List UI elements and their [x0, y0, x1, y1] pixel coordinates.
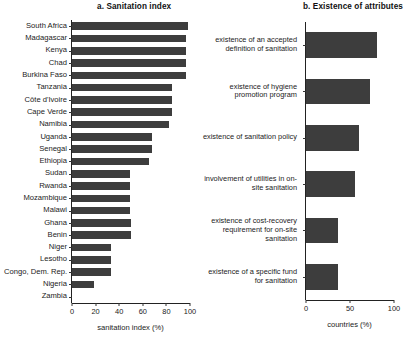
category-label: existence of an accepted definition of s…: [200, 22, 297, 68]
bar: [72, 182, 130, 190]
bar: [306, 264, 338, 290]
bar: [72, 59, 186, 67]
bar: [306, 32, 377, 58]
bar-row: [306, 22, 394, 68]
bar: [72, 84, 172, 92]
category-label: Tanzania: [0, 81, 67, 93]
category-label: Ethiopia: [0, 155, 67, 167]
category-tick: [69, 38, 72, 39]
category-label: Côte d'Ivoire: [0, 94, 67, 106]
bar-row: [72, 192, 190, 204]
category-tick: [69, 174, 72, 175]
category-label: Namibia: [0, 118, 67, 130]
x-tick: [95, 303, 96, 306]
bar: [72, 158, 149, 166]
chart-b-title: b. Existence of attributes: [303, 2, 403, 11]
bar: [72, 47, 186, 55]
category-tick: [69, 100, 72, 101]
chart-a-plot-area: 020406080100: [71, 20, 190, 303]
bar-row: [72, 180, 190, 192]
x-tick-label: 100: [388, 304, 400, 313]
x-tick-label: 0: [304, 304, 308, 313]
category-label: Benin: [0, 229, 67, 241]
bar-row: [306, 254, 394, 300]
category-tick: [69, 63, 72, 64]
x-tick-label: 60: [139, 307, 147, 316]
chart-a-x-axis-label: sanitation index (%): [71, 323, 190, 332]
category-label: Zambia: [0, 291, 67, 303]
bar-row: [72, 254, 190, 266]
category-label: existence of cost-recovery requirement f…: [200, 207, 297, 253]
bar-row: [72, 278, 190, 290]
bar: [72, 170, 130, 178]
category-tick: [69, 223, 72, 224]
x-tick-label: 40: [115, 307, 123, 316]
bar-row: [72, 143, 190, 155]
category-label: Lesotho: [0, 254, 67, 266]
category-label: existence of a specific fund for sanitat…: [200, 254, 297, 300]
category-tick: [303, 45, 306, 46]
x-tick: [190, 303, 191, 306]
category-tick: [69, 198, 72, 199]
category-tick: [69, 235, 72, 236]
chart-b-x-axis-label: countries (%): [305, 320, 394, 329]
bar-row: [72, 106, 190, 118]
category-tick: [69, 149, 72, 150]
category-label: Cape Verde: [0, 106, 67, 118]
bar: [72, 22, 188, 30]
category-tick: [69, 161, 72, 162]
category-tick: [303, 277, 306, 278]
bar-row: [72, 118, 190, 130]
category-tick: [303, 230, 306, 231]
x-tick: [166, 303, 167, 306]
chart-b-plot-area: 050100: [305, 22, 394, 300]
bar: [306, 218, 338, 244]
category-label: existence of hygiene promotion program: [200, 68, 297, 114]
bar-row: [306, 68, 394, 114]
bar-row: [72, 266, 190, 278]
bar: [306, 79, 370, 105]
x-tick-label: 100: [184, 307, 196, 316]
bar: [72, 256, 111, 264]
category-tick: [69, 297, 72, 298]
category-label: Rwanda: [0, 180, 67, 192]
category-tick: [69, 186, 72, 187]
bar: [72, 219, 131, 227]
chart-panel-a: a. Sanitation index South AfricaMadagasc…: [0, 0, 200, 344]
chart-a-x-axis: [72, 303, 190, 304]
category-label: Burkina Faso: [0, 69, 67, 81]
x-tick-label: 80: [162, 307, 170, 316]
chart-a-bars: [72, 20, 190, 303]
bar-row: [72, 204, 190, 216]
bar-row: [72, 45, 190, 57]
bar-row: [72, 32, 190, 44]
bar: [72, 145, 152, 153]
category-tick: [69, 211, 72, 212]
x-tick-label: 0: [70, 307, 74, 316]
x-tick: [350, 300, 351, 303]
category-label: Malawi: [0, 204, 67, 216]
category-label: South Africa: [0, 20, 67, 32]
category-label: Ghana: [0, 217, 67, 229]
bar-row: [72, 69, 190, 81]
bar-row: [72, 241, 190, 253]
category-label: Kenya: [0, 45, 67, 57]
category-tick: [69, 284, 72, 285]
category-tick: [69, 125, 72, 126]
category-tick: [69, 51, 72, 52]
x-tick: [306, 300, 307, 303]
bar: [306, 171, 355, 197]
category-tick: [303, 138, 306, 139]
category-label: Nigeria: [0, 278, 67, 290]
bar: [72, 244, 111, 252]
bar: [72, 35, 186, 43]
category-tick: [69, 260, 72, 261]
bar: [72, 108, 172, 116]
bar-row: [72, 217, 190, 229]
category-label: existence of sanitation policy: [200, 115, 297, 161]
bar: [72, 231, 131, 239]
bar: [72, 281, 94, 289]
bar: [306, 125, 359, 151]
bar-row: [72, 229, 190, 241]
chart-b-category-labels: existence of an accepted definition of s…: [200, 22, 301, 300]
